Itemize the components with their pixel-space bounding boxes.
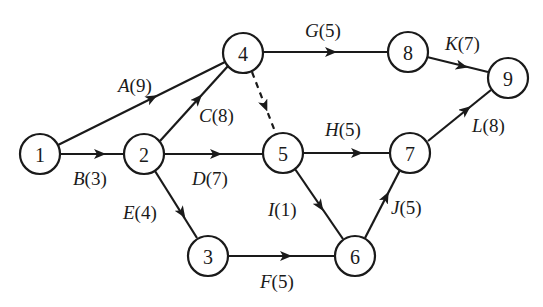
svg-text:4: 4 — [238, 43, 248, 65]
label-C: C(8) — [199, 105, 234, 127]
svg-text:5: 5 — [278, 143, 288, 165]
node-5: 5 — [263, 133, 303, 173]
label-H: H(5) — [324, 119, 361, 141]
edge-dummy-4-5 — [252, 72, 276, 134]
label-F: F(5) — [259, 271, 294, 293]
node-3: 3 — [188, 236, 228, 276]
svg-text:1: 1 — [35, 144, 45, 166]
edge-I — [295, 169, 343, 239]
svg-text:6: 6 — [350, 246, 360, 268]
node-8: 8 — [388, 32, 428, 72]
label-I: I(1) — [267, 199, 296, 221]
svg-text:2: 2 — [139, 144, 149, 166]
label-A: A(9) — [116, 75, 152, 97]
node-1: 1 — [20, 134, 60, 174]
label-J: J(5) — [391, 197, 422, 219]
label-D: D(7) — [191, 168, 228, 190]
label-L: L(8) — [471, 115, 505, 137]
svg-text:9: 9 — [503, 68, 513, 90]
label-B: B(3) — [73, 168, 107, 190]
edge-E — [155, 171, 197, 238]
network-diagram: A(9) B(3) C(8) D(7) E(4) F(5) G(5) H(5) … — [0, 0, 543, 307]
svg-text:3: 3 — [203, 246, 213, 268]
svg-text:8: 8 — [403, 42, 413, 64]
label-K: K(7) — [444, 33, 480, 55]
svg-text:7: 7 — [405, 143, 415, 165]
node-6: 6 — [335, 236, 375, 276]
label-E: E(4) — [122, 202, 157, 224]
node-7: 7 — [390, 133, 430, 173]
node-2: 2 — [124, 134, 164, 174]
label-G: G(5) — [305, 20, 341, 42]
node-4: 4 — [223, 33, 263, 73]
edge-K — [427, 57, 488, 72]
node-9: 9 — [488, 58, 528, 98]
